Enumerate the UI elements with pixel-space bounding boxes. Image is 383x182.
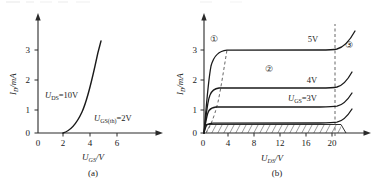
panel-b-xtick-4: 4 xyxy=(226,138,231,148)
panel-b-xtick-8: 8 xyxy=(252,138,257,148)
panel-a-y-axis-label: ID/mA xyxy=(8,73,19,96)
panel-b-ytick-3: 3 xyxy=(193,45,198,55)
panel-b-xlabel-sub: DS xyxy=(267,158,275,164)
panel-a-xtick-0: 0 xyxy=(36,138,41,148)
panel-b-xlabel-unit: /V xyxy=(274,153,285,163)
panel-a-x-axis-label: UGS/V xyxy=(82,152,105,163)
region-marker-2: ② xyxy=(265,64,273,74)
pinch-off-locus-dashed xyxy=(206,50,227,133)
ugs3v-sub: GS xyxy=(294,98,302,104)
curve-label-5v: 5V xyxy=(308,34,319,44)
svg-text:ID/mA: ID/mA xyxy=(175,73,186,96)
panel-b-xtick-12: 12 xyxy=(276,138,285,148)
panel-b-caption: (b) xyxy=(272,168,283,178)
ugsth-sub: GS(th) xyxy=(100,118,116,125)
ugsth-tail: =2V xyxy=(116,113,132,123)
uds-sub: DS xyxy=(51,95,59,101)
panel-a-xtick-4: 4 xyxy=(88,138,93,148)
panel-b-xtick-0: 0 xyxy=(201,138,206,148)
svg-text:ID/mA: ID/mA xyxy=(8,73,19,96)
panel-b-x-axis-label: UDS/V xyxy=(261,153,284,164)
figure-container: 0 1 2 3 0 2 4 6 ID/mA UGS/V UDS= xyxy=(0,0,383,182)
cutoff-hatched-region xyxy=(206,125,346,134)
panel-b-xtick-16: 16 xyxy=(302,138,312,148)
panel-a-ylabel-unit: /mA xyxy=(8,73,18,89)
panel-b-ytick-0: 0 xyxy=(193,128,198,138)
panel-a-ytick-2: 2 xyxy=(26,75,31,85)
panel-a-x-axis xyxy=(38,130,163,136)
panel-a-xlabel-sub: GS xyxy=(89,157,96,163)
panel-b-y-axis-label: ID/mA xyxy=(175,73,186,96)
panel-a-ugsth-annotation: UGS(th)=2V xyxy=(94,113,133,125)
panel-a-xtick-2: 2 xyxy=(61,138,66,148)
output-curve-ugs-5v xyxy=(204,31,355,133)
output-curve-ugs-4v xyxy=(204,72,352,133)
panel-a-xlabel-unit: /V xyxy=(95,152,106,162)
panel-a-uds-annotation: UDS=10V xyxy=(45,90,79,101)
curve-label-4v: 4V xyxy=(307,75,318,85)
panel-a-ytick-3: 3 xyxy=(26,45,31,55)
ugs3v-tail: =3V xyxy=(302,93,318,103)
figure-svg: 0 1 2 3 0 2 4 6 ID/mA UGS/V UDS= xyxy=(0,0,383,182)
panel-a-ytick-1: 1 xyxy=(26,105,31,115)
panel-a-y-axis xyxy=(35,13,41,133)
panel-b-ytick-2: 2 xyxy=(193,75,198,85)
uds-tail: =10V xyxy=(59,90,79,100)
region-marker-1: ① xyxy=(210,34,218,44)
panel-a-caption: (a) xyxy=(88,168,98,178)
curve-label-ugs-3v: UGS=3V xyxy=(288,93,318,104)
region-marker-3: ③ xyxy=(345,40,353,50)
panel-b-ytick-1: 1 xyxy=(193,105,198,115)
panel-a-xtick-6: 6 xyxy=(115,138,120,148)
panel-b-xtick-20: 20 xyxy=(328,138,338,148)
panel-a: 0 1 2 3 0 2 4 6 ID/mA UGS/V UDS= xyxy=(8,13,163,178)
panel-b: 0 1 2 3 0 4 8 12 16 20 ID/mA UDS/V xyxy=(175,13,371,178)
panel-b-ylabel-unit: /mA xyxy=(175,73,185,89)
panel-a-ytick-0: 0 xyxy=(26,128,31,138)
